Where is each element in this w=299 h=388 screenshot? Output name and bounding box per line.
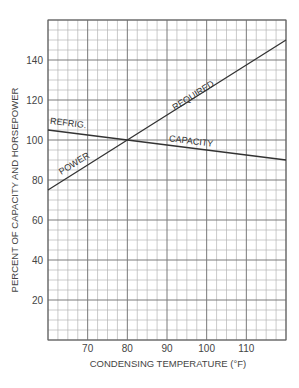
x-tick-label: 100 bbox=[198, 343, 215, 354]
x-tick-label: 80 bbox=[122, 343, 134, 354]
y-tick-label: 120 bbox=[26, 95, 43, 106]
y-tick-label: 40 bbox=[32, 255, 44, 266]
chart: POWERREQUIREDREFRIG.CAPACITY 20406080100… bbox=[0, 0, 299, 388]
x-tick-label: 90 bbox=[161, 343, 173, 354]
series-label: REFRIG. bbox=[49, 116, 86, 130]
y-tick-label: 80 bbox=[32, 175, 44, 186]
series-label: REQUIRED bbox=[170, 78, 216, 112]
x-axis-ticks: 708090100110 bbox=[82, 343, 255, 354]
y-tick-label: 60 bbox=[32, 215, 44, 226]
series-labels: POWERREQUIREDREFRIG.CAPACITY bbox=[49, 78, 216, 176]
x-tick-label: 70 bbox=[82, 343, 94, 354]
y-axis-title: PERCENT OF CAPACITY AND HORSEPOWER bbox=[9, 87, 20, 292]
y-tick-label: 100 bbox=[26, 135, 43, 146]
major-grid bbox=[48, 20, 286, 340]
y-tick-label: 140 bbox=[26, 55, 43, 66]
x-tick-label: 110 bbox=[238, 343, 254, 354]
y-tick-label: 20 bbox=[32, 295, 44, 306]
x-axis-title: CONDENSING TEMPERATURE (°F) bbox=[90, 358, 247, 369]
y-axis-ticks: 20406080100120140 bbox=[26, 55, 43, 306]
